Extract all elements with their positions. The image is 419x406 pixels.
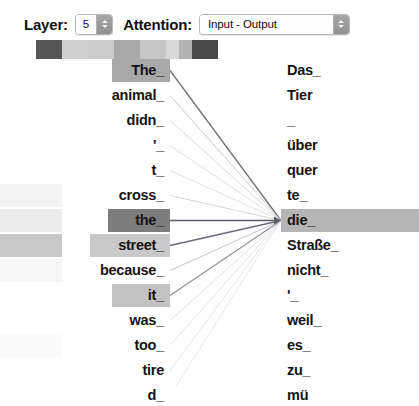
input-token-label: t_ (152, 162, 164, 178)
stepper-down-arrow (102, 25, 108, 28)
attention-line (170, 121, 281, 221)
input-token-row[interactable]: too_ (22, 333, 170, 358)
output-token-row[interactable]: nicht_ (281, 258, 419, 283)
head-swatch-2[interactable] (88, 40, 114, 59)
layer-label: Layer: (24, 16, 68, 33)
input-token-row[interactable]: '_ (22, 133, 170, 158)
input-token-label: street_ (118, 237, 164, 253)
input-token-row[interactable]: d_ (22, 383, 170, 406)
head-color-swatches[interactable] (36, 40, 218, 59)
output-token-label: quer (287, 162, 317, 178)
stepper-up-arrow (102, 20, 108, 23)
input-token-label: it_ (148, 287, 164, 303)
stepper-up-arrow (338, 20, 344, 23)
output-token-label: nicht_ (287, 262, 328, 278)
input-token-row[interactable]: t_ (22, 158, 170, 183)
input-token-label: The_ (131, 62, 164, 78)
input-token-label: animal_ (112, 87, 164, 103)
input-token-label: too_ (134, 337, 164, 353)
stepper-up-down-icon[interactable] (333, 15, 349, 34)
input-token-row[interactable]: because_ (22, 258, 170, 283)
layer-select-value: 5 (76, 15, 96, 34)
output-token-row[interactable]: die_ (281, 208, 419, 233)
output-token-row[interactable]: Tier (281, 83, 419, 108)
output-token-label: über (287, 137, 317, 153)
input-token-label: because_ (100, 262, 164, 278)
attention-line (170, 221, 281, 296)
output-token-label: Straße_ (287, 237, 338, 253)
attention-line (170, 96, 281, 221)
input-token-row[interactable]: street_ (22, 233, 170, 258)
head-swatch-3[interactable] (114, 40, 140, 59)
output-tokens-column: Das_Tier_überquerte_die_Straße_nicht_'_w… (281, 58, 419, 406)
head-swatch-0[interactable] (36, 40, 62, 59)
output-token-row[interactable]: '_ (281, 283, 419, 308)
output-token-row[interactable]: über (281, 133, 419, 158)
output-token-row[interactable]: te_ (281, 183, 419, 208)
input-token-row[interactable]: cross_ (22, 183, 170, 208)
head-swatch-6[interactable] (179, 40, 192, 59)
output-token-label: weil_ (287, 312, 321, 328)
input-token-label: tire (142, 362, 164, 378)
layer-select[interactable]: 5 (75, 14, 113, 35)
output-token-row[interactable]: mü (281, 383, 419, 406)
input-token-row[interactable]: tire (22, 358, 170, 383)
output-token-row[interactable]: _ (281, 108, 419, 133)
output-token-label: zu_ (287, 362, 310, 378)
output-token-label: Tier (287, 87, 312, 103)
output-token-label: Das_ (287, 62, 321, 78)
attention-line (170, 221, 281, 371)
output-token-label: es_ (287, 337, 310, 353)
attention-label: Attention: (123, 16, 192, 33)
output-token-label: '_ (287, 287, 298, 303)
output-token-row[interactable]: quer (281, 158, 419, 183)
output-token-label: _ (287, 112, 295, 128)
head-swatch-7[interactable] (192, 40, 218, 59)
output-token-row[interactable]: Straße_ (281, 233, 419, 258)
attention-select[interactable]: Input - Output (199, 14, 350, 35)
output-token-label: mü (287, 387, 308, 403)
input-token-label: the_ (135, 212, 164, 228)
input-token-row[interactable]: was_ (22, 308, 170, 333)
attention-line (170, 196, 281, 221)
input-token-label: was_ (130, 312, 164, 328)
output-token-label: die_ (287, 212, 315, 228)
input-token-row[interactable]: animal_ (22, 83, 170, 108)
attention-line (170, 221, 281, 246)
input-token-row[interactable]: the_ (22, 208, 170, 233)
attention-select-value: Input - Output (200, 15, 333, 34)
attention-toolbar: Layer: 5 Attention: Input - Output (24, 13, 350, 35)
attention-line (170, 221, 281, 346)
output-token-row[interactable]: Das_ (281, 58, 419, 83)
input-token-label: cross_ (119, 187, 164, 203)
output-token-label: te_ (287, 187, 307, 203)
input-token-row[interactable]: didn_ (22, 108, 170, 133)
input-token-label: '_ (153, 137, 164, 153)
input-token-row[interactable]: it_ (22, 283, 170, 308)
attention-line (170, 71, 281, 221)
attention-visualization: The_animal_didn_'_t_cross_the_street_bec… (0, 58, 419, 387)
head-swatch-1[interactable] (62, 40, 88, 59)
stepper-up-down-icon[interactable] (96, 15, 112, 34)
attention-line (170, 146, 281, 221)
head-swatch-5[interactable] (166, 40, 179, 59)
attention-line (170, 171, 281, 221)
output-token-row[interactable]: zu_ (281, 358, 419, 383)
head-swatch-4[interactable] (140, 40, 166, 59)
output-token-row[interactable]: es_ (281, 333, 419, 358)
output-token-row[interactable]: weil_ (281, 308, 419, 333)
attention-line (170, 221, 281, 321)
input-token-label: d_ (148, 387, 164, 403)
stepper-down-arrow (338, 25, 344, 28)
attention-line (170, 221, 281, 271)
input-tokens-column: The_animal_didn_'_t_cross_the_street_bec… (22, 58, 170, 406)
input-token-row[interactable]: The_ (22, 58, 170, 83)
input-token-label: didn_ (127, 112, 164, 128)
